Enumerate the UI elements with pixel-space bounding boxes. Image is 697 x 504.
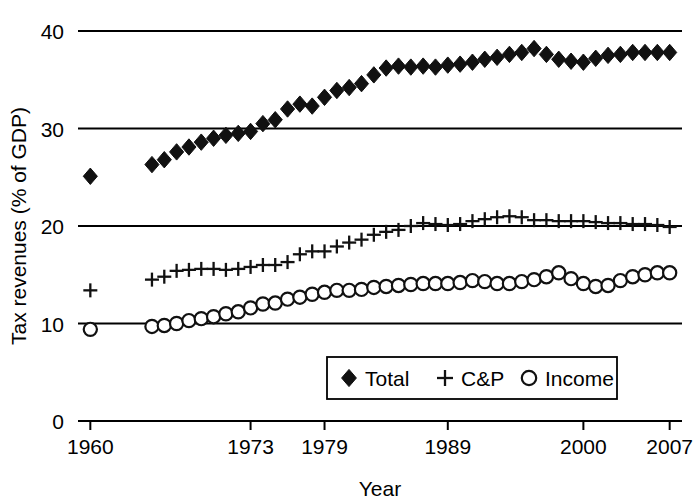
datapoint-total-1986	[404, 59, 418, 75]
datapoint-total-1968	[182, 139, 196, 155]
datapoint-income-1986	[404, 278, 417, 291]
datapoint-cp-1993	[490, 210, 504, 224]
y-tick-label-0: 0	[52, 410, 64, 433]
datapoint-income-1965	[145, 320, 158, 333]
datapoint-income-2005	[638, 268, 651, 281]
datapoint-cp-1990	[453, 217, 467, 231]
datapoint-cp-1997	[539, 213, 553, 227]
datapoint-total-1994	[502, 46, 516, 62]
x-axis-title: Year	[359, 477, 401, 500]
datapoint-income-1980	[330, 284, 343, 297]
datapoint-cp-1974	[256, 258, 270, 272]
datapoint-cp-1976	[281, 255, 295, 269]
datapoint-cp-1970	[207, 262, 221, 276]
datapoint-income-2006	[651, 266, 664, 279]
datapoint-total-1987	[416, 58, 430, 74]
datapoint-total-1966	[157, 152, 171, 168]
datapoint-cp-1982	[355, 233, 369, 247]
datapoint-cp-1992	[478, 212, 492, 226]
x-tick-label-1979: 1979	[301, 435, 348, 458]
datapoint-cp-2006	[650, 218, 664, 232]
datapoint-income-2007	[663, 266, 676, 279]
datapoint-cp-1978	[305, 244, 319, 258]
datapoint-cp-1971	[219, 263, 233, 277]
datapoint-income-1981	[343, 284, 356, 297]
datapoint-cp-1980	[330, 239, 344, 253]
datapoint-income-1975	[269, 296, 282, 309]
datapoint-income-1983	[367, 281, 380, 294]
datapoint-income-1974	[256, 297, 269, 310]
datapoint-income-1971	[219, 307, 232, 320]
datapoint-total-1984	[379, 60, 393, 76]
datapoint-income-1993	[491, 277, 504, 290]
datapoint-total-2001	[589, 50, 603, 66]
datapoint-income-2002	[601, 279, 614, 292]
datapoint-income-1992	[478, 275, 491, 288]
legend-label-income: Income	[545, 367, 614, 390]
datapoint-total-2007	[663, 44, 677, 60]
datapoint-income-1966	[158, 319, 171, 332]
datapoint-total-1980	[330, 82, 344, 98]
datapoint-income-1973	[244, 301, 257, 314]
datapoint-income-2004	[626, 270, 639, 283]
datapoint-total-1990	[453, 56, 467, 72]
datapoint-cp-2003	[613, 216, 627, 230]
datapoint-total-1978	[305, 98, 319, 114]
datapoint-total-1960	[83, 168, 97, 184]
datapoint-income-1960	[84, 323, 97, 336]
datapoint-total-1981	[342, 79, 356, 95]
y-tick-label-10: 10	[41, 313, 64, 336]
y-tick-label-40: 40	[41, 20, 64, 43]
datapoint-income-1977	[293, 291, 306, 304]
datapoint-cp-1981	[342, 236, 356, 250]
datapoint-total-1993	[490, 49, 504, 65]
legend-label-total: Total	[365, 367, 409, 390]
datapoint-income-1970	[207, 310, 220, 323]
datapoint-total-1998	[552, 51, 566, 67]
datapoint-cp-1967	[170, 264, 184, 278]
datapoint-total-2000	[576, 54, 590, 70]
datapoint-total-1995	[515, 44, 529, 60]
chart-canvas: 010203040196019731979198920002007YearTax…	[0, 0, 697, 504]
datapoint-income-1994	[503, 277, 516, 290]
datapoint-income-2003	[614, 274, 627, 287]
datapoint-total-1970	[207, 130, 221, 146]
datapoint-cp-1972	[231, 262, 245, 276]
datapoint-cp-1968	[182, 263, 196, 277]
datapoint-income-1999	[564, 272, 577, 285]
datapoint-total-1988	[428, 59, 442, 75]
datapoint-income-1978	[306, 288, 319, 301]
datapoint-cp-1975	[268, 258, 282, 272]
datapoint-income-1967	[170, 317, 183, 330]
datapoint-income-1989	[441, 277, 454, 290]
datapoint-cp-1984	[379, 225, 393, 239]
x-tick-label-1960: 1960	[67, 435, 114, 458]
datapoint-total-1965	[145, 156, 159, 172]
datapoint-cp-1989	[441, 218, 455, 232]
datapoint-cp-2007	[663, 220, 677, 234]
legend-marker-income	[522, 371, 536, 385]
datapoint-income-1987	[417, 277, 430, 290]
datapoint-cp-1987	[416, 216, 430, 230]
datapoint-total-1991	[465, 54, 479, 70]
datapoint-cp-2005	[638, 217, 652, 231]
datapoint-total-1967	[170, 144, 184, 160]
datapoint-income-1990	[454, 276, 467, 289]
datapoint-cp-2002	[601, 216, 615, 230]
datapoint-income-1976	[281, 293, 294, 306]
datapoint-total-1985	[391, 58, 405, 74]
y-axis-title: Tax revenues (% of GDP)	[7, 107, 30, 345]
datapoint-total-1999	[564, 53, 578, 69]
datapoint-cp-1996	[527, 213, 541, 227]
datapoint-total-1973	[244, 123, 258, 139]
datapoint-income-1984	[380, 280, 393, 293]
datapoint-income-1998	[552, 266, 565, 279]
datapoint-cp-1979	[318, 244, 332, 258]
datapoint-cp-1960	[83, 283, 97, 297]
datapoint-total-2002	[601, 47, 615, 63]
datapoint-cp-1966	[157, 270, 171, 284]
datapoint-total-1976	[280, 101, 294, 117]
datapoint-cp-1965	[145, 273, 159, 287]
datapoint-income-1996	[527, 273, 540, 286]
datapoint-income-1982	[355, 283, 368, 296]
